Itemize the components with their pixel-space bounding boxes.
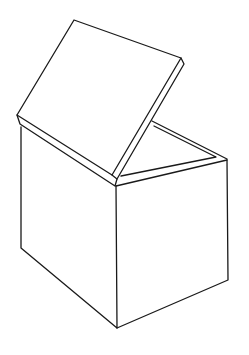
box-rim-back (152, 121, 227, 159)
box-left-wall (21, 127, 117, 328)
box-rim-back-inner (121, 126, 216, 176)
lid-right-edge (112, 58, 184, 179)
box-right-wall (117, 160, 228, 328)
box-rim-front (116, 160, 227, 186)
lid-top-face (17, 20, 181, 175)
open-box-illustration (0, 0, 249, 355)
lid-front-edge (17, 115, 117, 186)
